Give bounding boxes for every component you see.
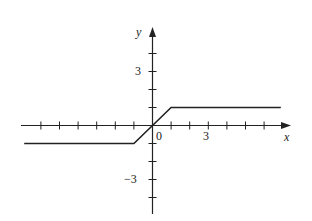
x-axis-arrow-icon <box>281 122 291 129</box>
origin-label: 0 <box>156 129 162 143</box>
axes <box>21 32 284 214</box>
y-axis-label: y <box>135 25 142 39</box>
y-tick-label-neg3: −3 <box>124 172 137 186</box>
y-axis-arrow-icon <box>149 27 156 37</box>
x-axis-label: x <box>283 130 290 144</box>
x-tick-label-3: 3 <box>203 129 209 143</box>
y-tick-label-3: 3 <box>135 64 141 78</box>
function-graph: x y 0 3 3 −3 <box>0 0 312 221</box>
